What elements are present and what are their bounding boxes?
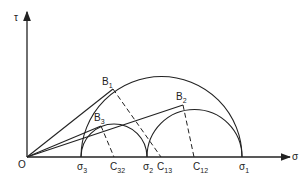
origin-label: O (18, 160, 26, 170)
radius-b1 (113, 89, 161, 157)
label-sigma3: σ3 (77, 162, 87, 174)
label-sub: 13 (164, 167, 172, 174)
circle-32 (81, 124, 147, 157)
label-sigma1: σ1 (239, 162, 249, 174)
label-text: B (176, 91, 183, 102)
label-sub: 1 (109, 82, 113, 89)
label-text: B (102, 76, 109, 87)
tangent-b2 (27, 105, 183, 157)
label-sub: 32 (117, 167, 125, 174)
label-b2: B2 (176, 92, 187, 104)
label-text: B (94, 112, 101, 123)
label-c12: C12 (193, 162, 208, 174)
label-sub: 1 (245, 167, 249, 174)
label-sub: 3 (83, 167, 87, 174)
label-c32: C32 (110, 162, 125, 174)
mohr-circle-diagram: τ σ O σ3 C32 σ2 C13 C12 σ1 B1 B2 B3 (0, 0, 304, 178)
diagram-canvas (0, 0, 304, 178)
label-sub: 2 (149, 167, 153, 174)
label-sub: 12 (200, 167, 208, 174)
circle-12 (147, 110, 242, 157)
label-sigma2: σ2 (143, 162, 153, 174)
label-sub: 2 (183, 97, 187, 104)
label-b1: B1 (102, 77, 113, 89)
label-sub: 3 (101, 118, 105, 125)
label-b3: B3 (94, 113, 105, 125)
tangent-b3 (27, 126, 101, 157)
tau-axis-label: τ (14, 13, 18, 23)
sigma-axis-label: σ (292, 152, 298, 162)
label-c13: C13 (157, 162, 172, 174)
radius-b2 (183, 105, 194, 157)
